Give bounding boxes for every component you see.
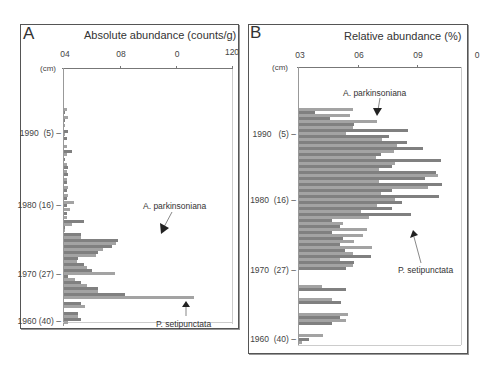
arrowhead-icon: [373, 108, 382, 116]
arrowhead-icon: [410, 230, 418, 238]
arrow-line: [164, 212, 172, 227]
arrowhead-icon: [182, 301, 190, 307]
arrow-line: [414, 237, 421, 263]
arrowhead-icon: [160, 223, 169, 234]
annotation-arrows: [0, 0, 494, 366]
